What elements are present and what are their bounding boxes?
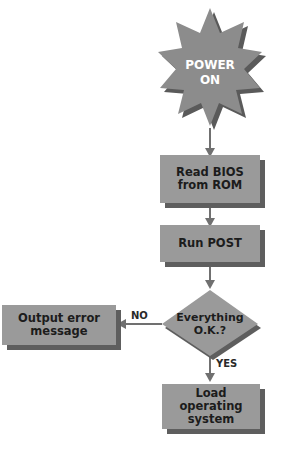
load-os-line1: Load operating [162,387,260,413]
power-on-label: POWER ON [160,48,260,98]
decision-line2: O.K.? [194,324,226,337]
run-post-label: Run POST [178,237,242,250]
load-os-box: Load operating system [162,384,260,429]
load-os-line2: system [188,413,234,426]
run-post-box: Run POST [160,225,260,262]
read-bios-box: Read BIOS from ROM [160,155,260,203]
decision-line1: Everything [176,311,243,324]
decision-label: Everything O.K.? [165,305,255,343]
error-line2: message [30,325,87,338]
power-on-line2: ON [200,73,220,88]
power-on-line1: POWER [185,58,235,73]
error-message-box: Output error message [2,305,116,345]
read-bios-line2: from ROM [178,179,243,192]
yes-label: YES [216,358,237,369]
no-label: NO [131,310,148,321]
